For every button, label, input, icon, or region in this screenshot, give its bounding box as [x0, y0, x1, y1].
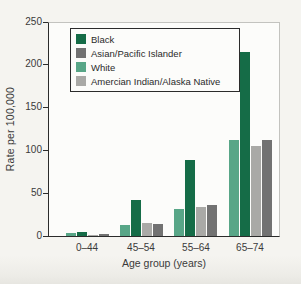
x-category-label: 45–54 — [119, 242, 163, 254]
legend-item: Amercian Indian/Alaska Native — [76, 74, 234, 88]
bar-white — [229, 140, 239, 236]
y-tick-label: 200 — [0, 57, 42, 71]
bar-black — [185, 160, 195, 236]
x-category-label: 55–64 — [174, 242, 218, 254]
bar-black — [240, 52, 250, 236]
figure: BlackAsian/Pacific IslanderWhiteAmercian… — [0, 0, 301, 284]
y-tick-mark — [43, 22, 48, 23]
bar-amercian-indian-alaska-native — [88, 235, 98, 236]
bar-asian-pacific-islander — [207, 205, 217, 236]
legend-label: Black — [91, 34, 114, 45]
y-tick-mark — [43, 193, 48, 194]
bar-asian-pacific-islander — [153, 224, 163, 236]
bar-white — [66, 233, 76, 236]
y-tick-label: 50 — [0, 186, 42, 200]
bar-asian-pacific-islander — [99, 234, 109, 236]
y-axis-label: Rate per 100,000 — [3, 69, 17, 189]
legend-swatch — [76, 34, 86, 44]
legend: BlackAsian/Pacific IslanderWhiteAmercian… — [70, 28, 240, 92]
legend-swatch — [76, 62, 86, 72]
legend-swatch — [76, 76, 86, 86]
y-tick-mark — [43, 236, 48, 237]
bar-black — [131, 200, 141, 236]
legend-label: Asian/Pacific Islander — [91, 48, 182, 59]
x-axis-label: Age group (years) — [48, 257, 280, 269]
y-tick-label: 150 — [0, 100, 42, 114]
legend-item: Black — [76, 32, 234, 46]
legend-item: White — [76, 60, 234, 74]
bar-amercian-indian-alaska-native — [196, 207, 206, 236]
bar-amercian-indian-alaska-native — [142, 223, 152, 236]
y-tick-mark — [43, 150, 48, 151]
y-tick-mark — [43, 64, 48, 65]
x-category-label: 65–74 — [228, 242, 272, 254]
bar-black — [77, 232, 87, 236]
bar-amercian-indian-alaska-native — [251, 146, 261, 236]
x-category-label: 0–44 — [65, 242, 109, 254]
legend-swatch — [76, 48, 86, 58]
y-tick-mark — [43, 107, 48, 108]
y-tick-label: 250 — [0, 15, 42, 29]
legend-item: Asian/Pacific Islander — [76, 46, 234, 60]
bar-asian-pacific-islander — [262, 140, 272, 236]
bar-white — [120, 225, 130, 236]
legend-label: Amercian Indian/Alaska Native — [91, 76, 220, 87]
y-tick-label: 0 — [0, 229, 42, 243]
y-tick-label: 100 — [0, 143, 42, 157]
legend-label: White — [91, 62, 115, 73]
bar-white — [174, 209, 184, 236]
